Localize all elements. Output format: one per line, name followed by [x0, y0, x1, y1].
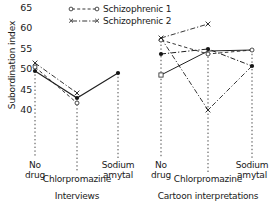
xtick-right-sodiumamytal-line1: Sodium	[236, 160, 269, 170]
xtick-left-nodrug-line1: No	[29, 160, 41, 170]
datapoint-normal-left-nodrug	[33, 69, 37, 73]
datapoint-normal-right-sodiumamytal	[250, 64, 254, 68]
datapoint-schizophrenic1-left-nodrug	[33, 65, 37, 69]
datapoint-normal-right-nodrug	[159, 52, 163, 56]
panel-title-interviews: Interviews	[32, 191, 122, 201]
datapoint-schizophrenic2-right-peak	[206, 22, 211, 27]
datapoint-normal-left-chlorpromazine	[75, 96, 79, 100]
chart-figure: 65 60 55 50 45 40 Subordination index Sc…	[0, 0, 274, 213]
xtick-right-sodiumamytal: Sodium amytal	[229, 160, 274, 180]
legend-sample-schizophrenic1	[69, 7, 99, 11]
y-axis-label: Subordination index	[7, 17, 17, 113]
datapoint-normal-right-chlorpromazine	[206, 47, 210, 51]
xtick-left-sodiumamytal: Sodium amytal	[95, 160, 141, 180]
legend-sample-schizophrenic2	[69, 19, 99, 23]
xtick-right-sodiumamytal-line2: amytal	[237, 170, 267, 180]
panel-title-cartoon-interpretations: Cartoon interpretations	[153, 191, 263, 201]
datapoint-schizophrenic1-right-chlorpromazine	[206, 52, 210, 56]
datapoint-schizophrenic2-left-chlorpromazine	[75, 91, 80, 96]
legend-label-schizophrenic2: Schizophrenic 2	[103, 16, 171, 26]
xtick-left-sodiumamytal-line1: Sodium	[102, 160, 135, 170]
series-schizophrenic2-line-right	[161, 24, 208, 38]
xtick-right-nodrug-line1: No	[155, 160, 167, 170]
ytick-65: 65	[14, 2, 32, 13]
datapoint-schizophrenic1-right-sodiumamytal	[250, 48, 254, 52]
legend-label-schizophrenic1: Schizophrenic 1	[103, 4, 171, 14]
series-schizophrenic2-line-left	[35, 63, 77, 93]
series-square-line-right	[161, 51, 208, 75]
datapoint-schizophrenic1-left-chlorpromazine	[75, 101, 79, 105]
datapoint-normal-left-sodiumamytal	[116, 71, 120, 75]
datapoint-schizophrenic2-right-chlorpromazine	[206, 108, 211, 113]
datapoint-square-right-nodrug	[159, 73, 163, 77]
xtick-left-sodiumamytal-line2: amytal	[103, 170, 133, 180]
